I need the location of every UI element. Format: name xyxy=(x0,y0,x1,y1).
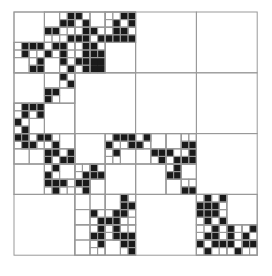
black-cell xyxy=(44,172,52,180)
black-cell xyxy=(44,149,52,157)
black-cell xyxy=(82,179,90,187)
black-cell xyxy=(67,80,75,88)
black-cell xyxy=(44,134,52,142)
black-cell xyxy=(37,111,45,119)
black-cell xyxy=(113,225,121,233)
black-cell xyxy=(204,217,212,225)
black-cell xyxy=(22,126,30,134)
black-cell xyxy=(60,73,68,81)
black-cell xyxy=(90,42,98,50)
black-cell xyxy=(212,240,220,248)
black-cell xyxy=(82,58,90,66)
black-cell xyxy=(242,232,250,240)
black-cell xyxy=(181,187,189,195)
black-cell xyxy=(174,164,182,172)
black-cell xyxy=(22,141,30,149)
black-cell xyxy=(44,27,52,35)
black-cell xyxy=(44,156,52,164)
black-cell xyxy=(128,232,136,240)
black-cell xyxy=(120,194,128,202)
black-cell xyxy=(60,179,68,187)
black-cell xyxy=(242,240,250,248)
black-cell xyxy=(120,240,128,248)
black-cell xyxy=(105,217,113,225)
black-cell xyxy=(120,134,128,142)
black-cell xyxy=(212,202,220,210)
black-cell xyxy=(113,210,121,218)
black-cell xyxy=(29,42,37,50)
black-cell xyxy=(82,27,90,35)
black-cell xyxy=(29,141,37,149)
black-cell xyxy=(90,164,98,172)
black-cell xyxy=(219,240,227,248)
black-cell xyxy=(82,65,90,73)
black-cell xyxy=(44,96,52,104)
black-cell xyxy=(52,141,60,149)
black-cell xyxy=(128,12,136,20)
black-cell xyxy=(67,20,75,28)
black-cell xyxy=(158,156,166,164)
black-cell xyxy=(219,194,227,202)
black-cell xyxy=(174,172,182,180)
black-cell xyxy=(60,58,68,66)
black-cell xyxy=(250,240,258,248)
black-cell xyxy=(128,141,136,149)
black-cell xyxy=(234,248,242,256)
black-cell xyxy=(22,50,30,58)
black-cell xyxy=(60,20,68,28)
black-cell xyxy=(98,50,106,58)
black-cell xyxy=(37,103,45,111)
black-cell xyxy=(128,20,136,28)
black-cell xyxy=(189,149,197,157)
black-cell xyxy=(90,232,98,240)
black-cell xyxy=(52,187,60,195)
black-cell xyxy=(212,225,220,233)
black-cell xyxy=(67,156,75,164)
black-cell xyxy=(113,217,121,225)
black-cell xyxy=(98,232,106,240)
black-cell xyxy=(82,187,90,195)
black-cell xyxy=(98,65,106,73)
black-cell xyxy=(90,172,98,180)
black-cell xyxy=(204,202,212,210)
black-cell xyxy=(52,179,60,187)
black-cell xyxy=(37,58,45,66)
black-cell xyxy=(90,210,98,218)
black-cell xyxy=(82,172,90,180)
black-cell xyxy=(98,172,106,180)
black-cell xyxy=(22,42,30,50)
black-cell xyxy=(98,217,106,225)
black-cell xyxy=(204,232,212,240)
black-cell xyxy=(120,35,128,43)
black-cell xyxy=(113,35,121,43)
black-cell xyxy=(82,35,90,43)
black-cell xyxy=(128,134,136,142)
black-cell xyxy=(60,42,68,50)
black-cell xyxy=(105,141,113,149)
black-cell xyxy=(14,118,22,126)
black-cell xyxy=(90,65,98,73)
black-cell xyxy=(196,210,204,218)
black-cell xyxy=(158,149,166,157)
black-cell xyxy=(22,134,30,142)
black-cell xyxy=(29,65,37,73)
black-cell xyxy=(52,164,60,172)
black-cell xyxy=(60,50,68,58)
black-cell xyxy=(113,134,121,142)
black-cell xyxy=(113,149,121,157)
black-cell xyxy=(212,232,220,240)
black-cell xyxy=(113,20,121,28)
black-cell xyxy=(82,50,90,58)
black-cell xyxy=(128,202,136,210)
black-cell xyxy=(113,232,121,240)
black-cell xyxy=(37,65,45,73)
black-cell xyxy=(204,210,212,218)
black-cell xyxy=(189,156,197,164)
black-cell xyxy=(120,12,128,20)
black-cell xyxy=(14,134,22,142)
black-cell xyxy=(227,225,235,233)
black-cell xyxy=(113,27,121,35)
black-cell xyxy=(98,240,106,248)
black-cell xyxy=(37,134,45,142)
black-cell xyxy=(75,179,83,187)
